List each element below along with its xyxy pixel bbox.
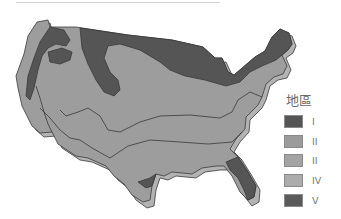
legend-item: II <box>284 151 340 171</box>
legend-swatch-V <box>284 194 303 207</box>
legend-swatch-IV <box>284 174 303 187</box>
legend-item: II <box>284 132 340 152</box>
legend-label: II <box>312 136 318 147</box>
legend-item: I <box>284 112 340 132</box>
legend-swatch-II <box>284 135 303 148</box>
legend-label: II <box>312 155 318 166</box>
legend-label: V <box>312 195 319 206</box>
legend-title: 地區 <box>286 94 340 108</box>
legend-label: I <box>312 116 315 127</box>
map-legend: 地區 I II II IV V <box>284 94 340 210</box>
legend-item: V <box>284 190 340 210</box>
legend-item: IV <box>284 171 340 191</box>
legend-swatch-III <box>284 154 303 167</box>
legend-label: IV <box>312 175 321 186</box>
legend-swatch-I <box>284 115 303 128</box>
